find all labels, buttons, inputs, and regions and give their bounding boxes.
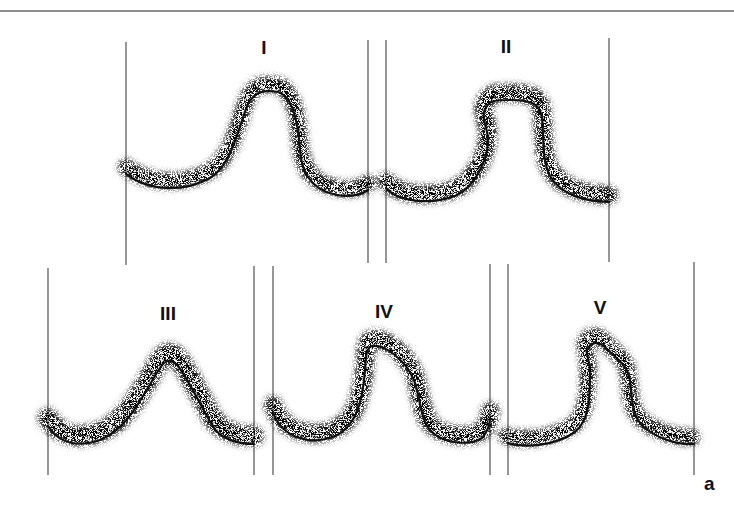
panel-V-stippled-layer (506, 336, 692, 439)
panel-IV-stippled-layer (273, 339, 490, 436)
figure-canvas: I II III IV V (0, 0, 734, 520)
figure-part-label: a (704, 473, 715, 494)
panel-IV-label: IV (375, 301, 393, 322)
panel-III-stippled-layer (48, 353, 254, 436)
panel-I-stippled-layer (126, 84, 368, 189)
panel-V: V (506, 262, 694, 475)
panel-III-label: III (160, 303, 176, 324)
panel-I-label: I (261, 37, 266, 58)
panel-II: II (386, 36, 609, 263)
panel-III: III (48, 266, 254, 475)
panel-IV: IV (273, 264, 490, 475)
panel-I: I (126, 37, 368, 265)
panel-V-label: V (594, 297, 607, 318)
panel-II-label: II (501, 36, 512, 57)
panel-II-stippled-layer (386, 93, 609, 195)
